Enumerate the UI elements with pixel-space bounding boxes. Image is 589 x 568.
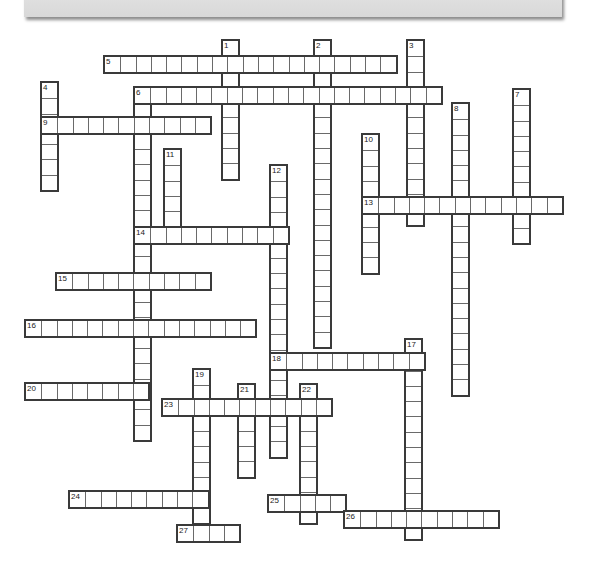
crossword-cell[interactable]: [224, 400, 239, 415]
crossword-cell[interactable]: [181, 57, 196, 72]
crossword-cell[interactable]: [410, 88, 425, 103]
crossword-cell[interactable]: [239, 416, 254, 431]
crossword-cell[interactable]: [437, 512, 452, 527]
crossword-cell[interactable]: [72, 274, 87, 289]
crossword-cell[interactable]: [288, 88, 303, 103]
crossword-cell[interactable]: [57, 384, 72, 399]
crossword-cell[interactable]: [271, 181, 286, 196]
crossword-cell[interactable]: [85, 492, 100, 507]
crossword-cell[interactable]: 10: [363, 135, 378, 150]
crossword-cell[interactable]: [88, 118, 103, 133]
crossword-cell[interactable]: [135, 348, 150, 363]
crossword-cell[interactable]: [315, 133, 330, 148]
crossword-cell[interactable]: [223, 117, 238, 132]
crossword-cell[interactable]: [166, 228, 181, 243]
crossword-cell[interactable]: [350, 57, 365, 72]
crossword-cell[interactable]: [210, 321, 225, 336]
crossword-cell[interactable]: [209, 400, 224, 415]
crossword-cell[interactable]: [116, 492, 131, 507]
crossword-cell[interactable]: [149, 118, 164, 133]
crossword-cell[interactable]: [453, 119, 468, 134]
crossword-cell[interactable]: [87, 321, 102, 336]
crossword-cell[interactable]: [133, 274, 148, 289]
crossword-cell[interactable]: [315, 270, 330, 285]
crossword-cell[interactable]: [363, 181, 378, 196]
crossword-cell[interactable]: [315, 148, 330, 163]
crossword-cell[interactable]: [301, 477, 316, 492]
crossword-cell[interactable]: [315, 332, 330, 347]
crossword-cell[interactable]: [197, 57, 212, 72]
crossword-cell[interactable]: [424, 198, 439, 213]
crossword-cell[interactable]: [240, 321, 255, 336]
crossword-cell[interactable]: [239, 446, 254, 461]
crossword-cell[interactable]: [239, 400, 254, 415]
crossword-cell[interactable]: [135, 302, 150, 317]
crossword-cell[interactable]: [378, 354, 393, 369]
crossword-cell[interactable]: [395, 88, 410, 103]
crossword-cell[interactable]: [408, 56, 423, 71]
crossword-cell[interactable]: 15: [57, 274, 72, 289]
crossword-cell[interactable]: [531, 198, 546, 213]
crossword-cell[interactable]: [319, 88, 334, 103]
crossword-cell[interactable]: [178, 400, 193, 415]
crossword-cell[interactable]: [271, 212, 286, 227]
crossword-cell[interactable]: 12: [271, 166, 286, 181]
crossword-cell[interactable]: [380, 88, 395, 103]
crossword-cell[interactable]: 23: [163, 400, 178, 415]
crossword-cell[interactable]: [514, 136, 529, 151]
crossword-cell[interactable]: [453, 364, 468, 379]
crossword-cell[interactable]: [485, 198, 500, 213]
crossword-cell[interactable]: [453, 272, 468, 287]
crossword-cell[interactable]: [365, 57, 380, 72]
crossword-cell[interactable]: [501, 198, 516, 213]
crossword-cell[interactable]: [179, 321, 194, 336]
crossword-cell[interactable]: [271, 426, 286, 441]
crossword-cell[interactable]: [363, 166, 378, 181]
crossword-cell[interactable]: [547, 198, 562, 213]
crossword-cell[interactable]: [406, 447, 421, 462]
crossword-cell[interactable]: [284, 496, 299, 511]
crossword-cell[interactable]: [453, 135, 468, 150]
crossword-cell[interactable]: [194, 400, 209, 415]
crossword-cell[interactable]: 26: [345, 512, 360, 527]
crossword-cell[interactable]: [467, 512, 482, 527]
crossword-cell[interactable]: 18: [271, 354, 286, 369]
crossword-cell[interactable]: [102, 384, 117, 399]
crossword-cell[interactable]: [271, 441, 286, 456]
crossword-cell[interactable]: [72, 321, 87, 336]
crossword-cell[interactable]: [194, 508, 209, 523]
crossword-cell[interactable]: [227, 228, 242, 243]
crossword-cell[interactable]: 6: [135, 88, 150, 103]
crossword-cell[interactable]: [42, 175, 57, 190]
crossword-cell[interactable]: [227, 88, 242, 103]
crossword-cell[interactable]: [289, 57, 304, 72]
crossword-cell[interactable]: [408, 148, 423, 163]
crossword-cell[interactable]: [194, 446, 209, 461]
crossword-cell[interactable]: 3: [408, 41, 423, 56]
crossword-cell[interactable]: 24: [70, 492, 85, 507]
crossword-cell[interactable]: [453, 180, 468, 195]
crossword-cell[interactable]: [455, 198, 470, 213]
crossword-cell[interactable]: [165, 211, 180, 226]
crossword-cell[interactable]: [150, 228, 165, 243]
crossword-cell[interactable]: [303, 88, 318, 103]
crossword-cell[interactable]: [301, 400, 316, 415]
crossword-cell[interactable]: [196, 228, 211, 243]
crossword-cell[interactable]: [136, 57, 151, 72]
crossword-cell[interactable]: [223, 148, 238, 163]
crossword-cell[interactable]: [118, 321, 133, 336]
crossword-cell[interactable]: [273, 88, 288, 103]
crossword-cell[interactable]: 2: [315, 41, 330, 56]
crossword-cell[interactable]: [315, 194, 330, 209]
crossword-cell[interactable]: [315, 496, 330, 511]
crossword-cell[interactable]: [72, 384, 87, 399]
crossword-cell[interactable]: 11: [165, 150, 180, 165]
crossword-cell[interactable]: [347, 354, 362, 369]
crossword-cell[interactable]: [406, 512, 421, 527]
crossword-cell[interactable]: [42, 144, 57, 159]
crossword-cell[interactable]: [135, 134, 150, 149]
crossword-cell[interactable]: [406, 432, 421, 447]
crossword-cell[interactable]: [421, 512, 436, 527]
crossword-cell[interactable]: 16: [26, 321, 41, 336]
crossword-cell[interactable]: [271, 334, 286, 349]
